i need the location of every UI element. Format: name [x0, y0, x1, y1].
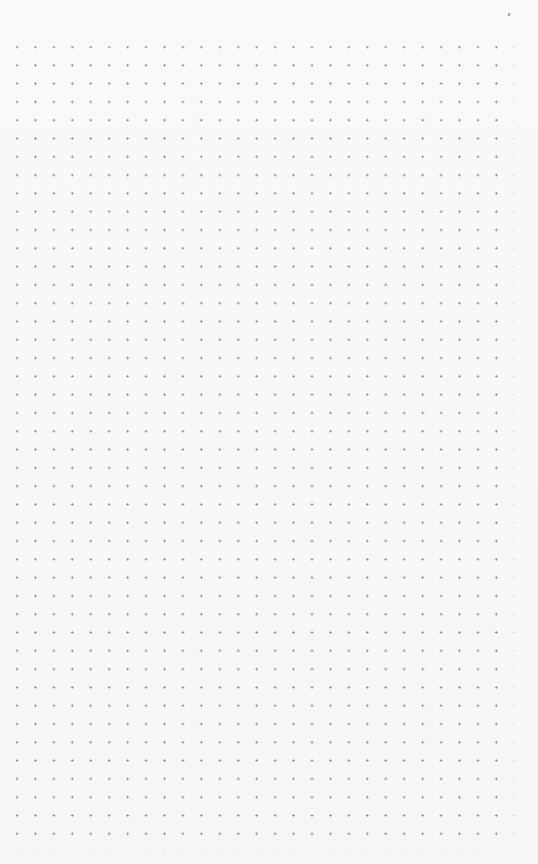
- dot-grid: [16, 46, 514, 851]
- corner-mark: [507, 13, 510, 17]
- dot-grid-page: [0, 0, 538, 864]
